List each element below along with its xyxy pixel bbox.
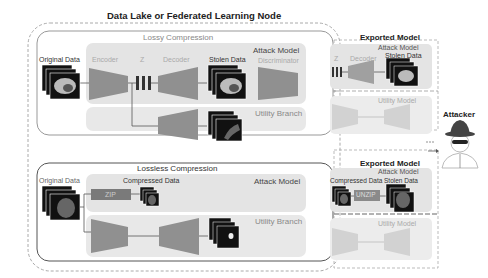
lossless-original-label: Original Data	[39, 177, 80, 184]
exported-bottom-stolen-label: Stolen Data	[384, 177, 418, 184]
stolen-data-label: Stolen Data	[209, 56, 246, 63]
lossless-utility-label: Utility Branch	[255, 217, 302, 226]
lossless-attack-label: Attack Model	[254, 177, 300, 186]
attacker-label: Attacker	[443, 110, 475, 119]
encoder-label: Encoder	[92, 56, 118, 63]
exported-bottom-compressed-label: Compressed Data	[330, 177, 382, 184]
attacker-icon	[442, 120, 478, 168]
exported-top-title: Exported Model	[360, 33, 420, 42]
exported-top-decoder-label: Decoder	[350, 55, 376, 62]
lossy-utility-label: Utility Branch	[255, 109, 302, 118]
exported-bottom-title: Exported Model	[360, 159, 420, 168]
zip-label: ZIP	[105, 191, 116, 198]
lossy-attack-label: Attack Model	[253, 46, 299, 55]
lossy-original-label: Original Data	[39, 56, 80, 63]
node-title: Data Lake or Federated Learning Node	[107, 10, 281, 21]
discriminator-label: Discriminator	[258, 57, 299, 64]
exported-top-z-label: Z	[334, 55, 338, 62]
exported-top-attack-label: Attack Model	[378, 44, 418, 51]
lossless-title: Lossless Compression	[137, 164, 217, 173]
exported-top-stolen-label: Stolen Data	[385, 52, 422, 59]
exported-top-utility-label: Utility Model	[378, 97, 416, 104]
exported-bottom-attack-label: Attack Model	[378, 168, 418, 175]
unzip-label: UNZIP	[356, 191, 376, 198]
exported-bottom-utility-label: Utility Model	[378, 220, 416, 227]
z-label: Z	[140, 56, 144, 63]
compressed-data-label: Compressed Data	[123, 177, 179, 184]
decoder-label: Decoder	[163, 56, 189, 63]
lossy-title: Lossy Compression	[143, 33, 213, 42]
